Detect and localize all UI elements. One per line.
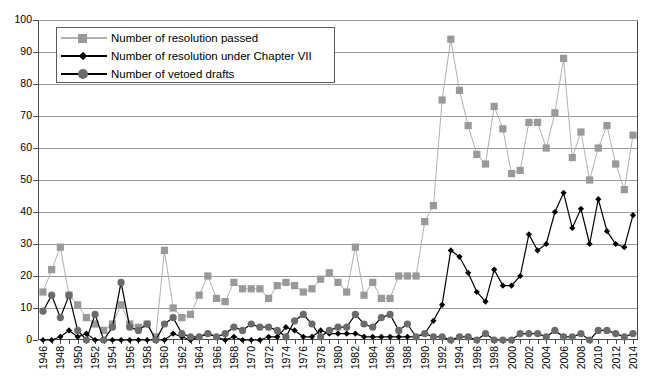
x-tick-mark: [381, 340, 382, 344]
x-tick-mark: [581, 340, 582, 344]
legend-label: Number of resolution passed: [111, 32, 258, 44]
x-tick-mark: [277, 340, 278, 344]
x-tick-mark: [269, 340, 270, 344]
legend-swatch-diamond-icon: [57, 48, 111, 64]
y-tick-label: 40: [6, 206, 32, 216]
x-tick-label: 1946: [38, 346, 49, 369]
legend-swatch-circle-icon: [57, 66, 111, 82]
y-tick-label: 20: [6, 270, 32, 280]
y-tick-label: 10: [6, 302, 32, 312]
legend-swatch-square-icon: [57, 30, 111, 46]
x-tick-label: 1988: [402, 346, 413, 369]
x-tick-mark: [616, 340, 617, 344]
x-tick-mark: [329, 340, 330, 344]
x-tick-label: 1986: [385, 346, 396, 369]
x-tick-label: 1950: [73, 346, 84, 369]
x-tick-mark: [555, 340, 556, 344]
x-tick-mark: [303, 340, 304, 344]
x-tick-mark: [217, 340, 218, 344]
x-tick-label: 1948: [55, 346, 66, 369]
x-tick-mark: [624, 340, 625, 344]
y-tick-label: 80: [6, 78, 32, 88]
x-tick-label: 1952: [90, 346, 101, 369]
x-tick-label: 2004: [541, 346, 552, 369]
x-tick-label: 1978: [316, 346, 327, 369]
y-tick-mark: [33, 340, 38, 341]
legend-label: Number of vetoed drafts: [111, 68, 234, 80]
y-tick-label: 30: [6, 238, 32, 248]
x-tick-mark: [538, 340, 539, 344]
y-tick-label: 60: [6, 142, 32, 152]
legend-label: Number of resolution under Chapter VII: [111, 50, 312, 62]
x-tick-mark: [486, 340, 487, 344]
chart-container: 0102030405060708090100 19461948195019521…: [0, 0, 658, 386]
x-tick-label: 2002: [524, 346, 535, 369]
legend-item-chapter-vii: Number of resolution under Chapter VII: [57, 47, 334, 64]
x-tick-label: 1990: [420, 346, 431, 369]
x-tick-label: 1996: [472, 346, 483, 369]
x-tick-label: 1964: [194, 346, 205, 369]
x-tick-mark: [78, 340, 79, 344]
x-tick-label: 1998: [489, 346, 500, 369]
x-tick-mark: [416, 340, 417, 344]
x-tick-mark: [338, 340, 339, 344]
x-tick-label: 1962: [177, 346, 188, 369]
x-tick-mark: [321, 340, 322, 344]
legend-item-resolution-passed: Number of resolution passed: [57, 29, 334, 46]
x-tick-label: 1974: [281, 346, 292, 369]
x-tick-label: 1960: [159, 346, 170, 369]
x-tick-label: 2014: [628, 346, 639, 369]
y-tick-label: 100: [6, 14, 32, 24]
x-tick-mark: [468, 340, 469, 344]
x-tick-mark: [572, 340, 573, 344]
y-tick-label: 0: [6, 334, 32, 344]
x-tick-mark: [286, 340, 287, 344]
x-tick-label: 1972: [264, 346, 275, 369]
x-tick-label: 1982: [350, 346, 361, 369]
x-tick-label: 1992: [437, 346, 448, 369]
x-tick-label: 2012: [611, 346, 622, 369]
x-tick-label: 1956: [125, 346, 136, 369]
y-tick-label: 70: [6, 110, 32, 120]
x-tick-label: 1966: [212, 346, 223, 369]
x-tick-label: 1984: [368, 346, 379, 369]
y-tick-label: 90: [6, 46, 32, 56]
x-tick-mark: [442, 340, 443, 344]
x-tick-label: 1958: [142, 346, 153, 369]
x-tick-label: 1976: [298, 346, 309, 369]
x-tick-label: 1968: [229, 346, 240, 369]
x-tick-label: 1994: [454, 346, 465, 369]
x-tick-label: 2000: [507, 346, 518, 369]
x-tick-mark: [433, 340, 434, 344]
x-tick-mark: [182, 340, 183, 344]
x-tick-mark: [60, 340, 61, 344]
x-tick-label: 1980: [333, 346, 344, 369]
x-tick-mark: [520, 340, 521, 344]
x-tick-mark: [234, 340, 235, 344]
x-tick-label: 2010: [593, 346, 604, 369]
legend-item-vetoed-drafts: Number of vetoed drafts: [57, 65, 334, 82]
x-tick-mark: [173, 340, 174, 344]
x-tick-mark: [312, 340, 313, 344]
x-tick-mark: [199, 340, 200, 344]
x-tick-mark: [529, 340, 530, 344]
x-tick-mark: [364, 340, 365, 344]
x-tick-label: 2008: [576, 346, 587, 369]
x-tick-mark: [564, 340, 565, 344]
series-diamond: [40, 190, 636, 343]
y-tick-label: 50: [6, 174, 32, 184]
x-tick-mark: [407, 340, 408, 344]
x-tick-label: 1970: [246, 346, 257, 369]
x-tick-mark: [390, 340, 391, 344]
x-tick-mark: [459, 340, 460, 344]
x-tick-mark: [347, 340, 348, 344]
x-tick-mark: [373, 340, 374, 344]
x-tick-mark: [399, 340, 400, 344]
x-tick-mark: [633, 340, 634, 344]
chart-legend: Number of resolution passed Number of re…: [56, 27, 335, 83]
x-tick-mark: [607, 340, 608, 344]
x-tick-mark: [598, 340, 599, 344]
x-tick-label: 2006: [559, 346, 570, 369]
x-tick-label: 1954: [107, 346, 118, 369]
x-tick-mark: [69, 340, 70, 344]
